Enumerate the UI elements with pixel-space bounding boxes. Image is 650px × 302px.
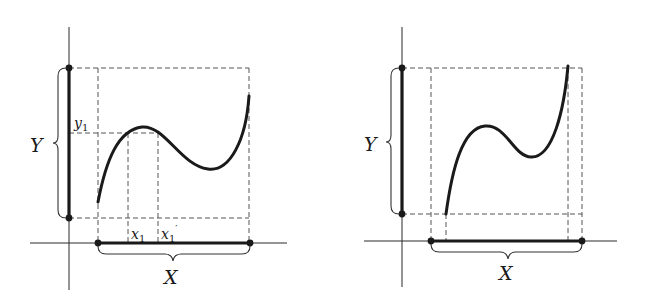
right-panel: Y X xyxy=(364,27,617,287)
function-image-diagrams: Y X y1 x1 x1′ Y X xyxy=(0,0,650,302)
left-panel: Y X y1 x1 x1′ xyxy=(30,27,287,290)
label-x1: x1 xyxy=(131,226,145,244)
label-y1: y1 xyxy=(73,115,88,133)
x-start-point xyxy=(428,238,435,245)
label-x1-prime: x1′ xyxy=(161,223,178,244)
function-curve xyxy=(446,66,568,214)
x-end-point xyxy=(579,238,586,245)
y-brace xyxy=(386,68,399,214)
y-bottom-point xyxy=(399,211,406,218)
x-start-point xyxy=(95,240,102,247)
x-end-point xyxy=(247,240,254,247)
function-curve xyxy=(98,96,249,202)
y-bottom-point xyxy=(66,215,73,222)
label-X: X xyxy=(497,262,514,284)
y-top-point xyxy=(399,65,406,72)
label-X: X xyxy=(162,266,179,288)
y-brace xyxy=(53,68,66,218)
x-brace xyxy=(98,246,250,261)
y-top-point xyxy=(66,65,73,72)
label-Y: Y xyxy=(364,133,379,155)
label-Y: Y xyxy=(30,134,45,156)
x-brace xyxy=(431,244,582,259)
